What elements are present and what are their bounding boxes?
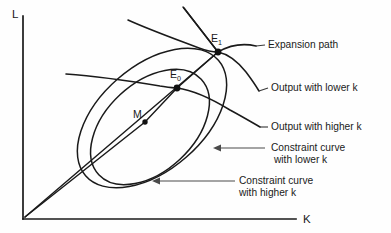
arrowhead-constraint-lower-k [213, 145, 221, 152]
annotation-output-higher-k: Output with higher k [271, 121, 363, 132]
diagram-canvas: E 1 E 0 M L K Expansion path [0, 0, 391, 233]
expansion-path-ray [25, 52, 218, 217]
annotation-constraint-lower-k-line1: Constraint curve [271, 142, 346, 153]
y-axis-label: L [12, 8, 19, 20]
annotation-constraint-lower-k-line2: with lower k [273, 154, 328, 165]
isoquant-lower-k [128, 20, 259, 91]
expansion-path-upper-segment [183, 7, 218, 52]
point-marker-m [142, 119, 147, 124]
label-m: M [133, 108, 142, 120]
leader-expansion-path [256, 45, 265, 46]
leader-lines [152, 45, 268, 184]
label-e0: E [170, 68, 177, 80]
annotation-labels: Expansion path Output with lower k Outpu… [238, 39, 363, 198]
expansion-path-right-curve [218, 45, 256, 52]
label-e1: E [211, 32, 218, 44]
label-e1-subscript: 1 [218, 38, 222, 47]
point-marker-e1 [215, 49, 222, 56]
expansion-path-construction [25, 8, 218, 217]
leader-output-lower-k [259, 88, 268, 91]
annotation-constraint-higher-k-line1: Constraint curve [239, 175, 314, 186]
isoquant-higher-k [66, 74, 260, 127]
x-axis-label: K [303, 213, 311, 225]
annotation-output-lower-k: Output with lower k [271, 82, 359, 93]
annotation-constraint-higher-k-line2: with higher k [238, 187, 297, 198]
label-e0-subscript: 0 [177, 74, 181, 83]
expansion-path-figure: E 1 E 0 M L K Expansion path [0, 0, 391, 233]
point-marker-e0 [174, 85, 181, 92]
annotation-expansion-path: Expansion path [268, 39, 338, 50]
